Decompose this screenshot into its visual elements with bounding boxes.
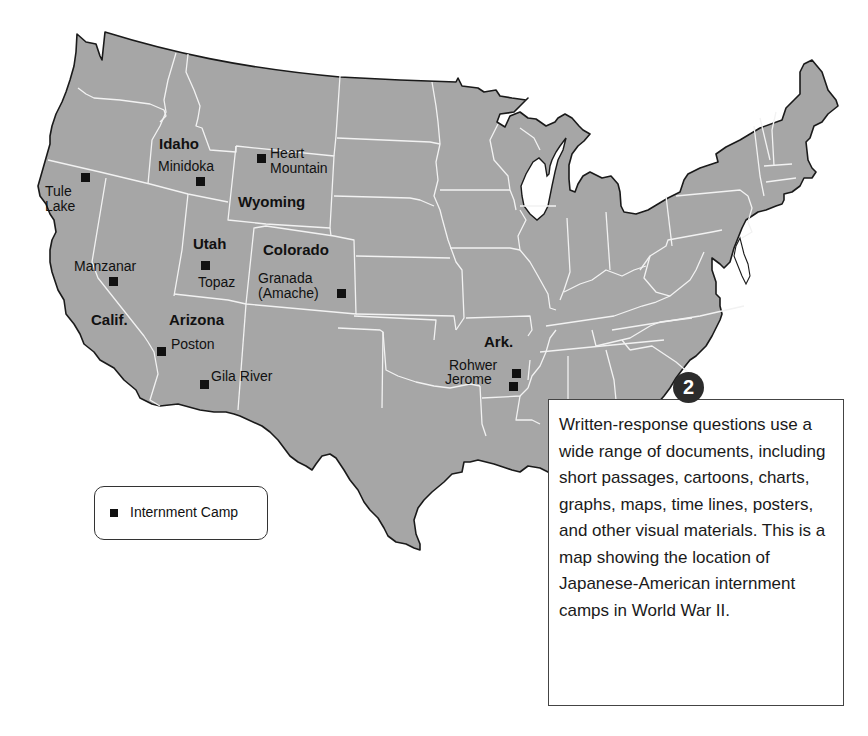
state-label-idaho: Idaho [159, 136, 199, 152]
camp-marker-icon-tule-lake [81, 173, 90, 182]
camp-marker-icon-gila-river [200, 380, 209, 389]
state-label-colorado: Colorado [263, 242, 329, 258]
camp-label-tule-lake: Tule Lake [45, 184, 75, 214]
camp-marker-icon-rohwer [512, 369, 521, 378]
camp-label-topaz: Topaz [198, 275, 235, 290]
chesapeake-bay [734, 238, 750, 284]
camp-label-manzanar: Manzanar [74, 259, 136, 274]
camp-label-granada: Granada (Amache) [258, 271, 319, 301]
square-marker-icon [110, 509, 118, 517]
camp-label-heart-mountain: Heart Mountain [270, 146, 328, 176]
state-label-utah: Utah [193, 236, 226, 252]
map-legend: Internment Camp [94, 486, 268, 540]
camp-marker-icon-minidoka [196, 177, 205, 186]
camp-marker-icon-heart-mountain [257, 154, 266, 163]
callout-box: Written-response questions use a wide ra… [548, 399, 844, 706]
camp-label-minidoka: Minidoka [158, 159, 214, 174]
camp-label-gila-river: Gila River [211, 369, 272, 384]
state-label-arkansas: Ark. [484, 334, 513, 350]
legend-label: Internment Camp [130, 504, 238, 520]
state-label-arizona: Arizona [169, 312, 224, 328]
camp-marker-icon-manzanar [109, 277, 118, 286]
camp-marker-icon-granada [337, 289, 346, 298]
camp-marker-icon-topaz [201, 261, 210, 270]
camp-label-poston: Poston [171, 337, 215, 352]
callout-text: Written-response questions use a wide ra… [559, 412, 833, 624]
camp-marker-icon-poston [157, 347, 166, 356]
state-label-california: Calif. [91, 312, 128, 328]
number-badge: 2 [673, 372, 704, 403]
state-label-wyoming: Wyoming [238, 194, 305, 210]
camp-marker-icon-jerome [509, 382, 518, 391]
camp-label-jerome: Jerome [445, 372, 492, 387]
